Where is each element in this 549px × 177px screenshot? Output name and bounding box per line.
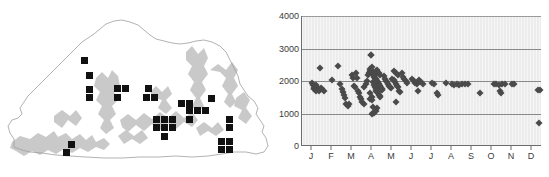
occurrence-marker [151, 94, 158, 101]
x-tick-label: F [328, 152, 334, 161]
y-tick-label: 2000 [279, 77, 299, 86]
occurrence-marker [202, 107, 209, 114]
occurrence-marker [68, 141, 75, 148]
scatter-point [360, 101, 367, 108]
occurrence-marker [86, 72, 93, 79]
x-tick-label: J [409, 152, 414, 161]
occurrence-marker [178, 100, 185, 107]
occurrence-marker [161, 133, 168, 140]
occurrence-marker [161, 116, 168, 123]
occurrence-marker [194, 107, 201, 114]
occurrence-marker [218, 146, 225, 153]
x-tick-mark [331, 146, 332, 150]
x-tick-label: J [429, 152, 434, 161]
x-tick-label: A [368, 152, 374, 161]
x-tick-mark [471, 146, 472, 150]
gridline [302, 49, 541, 50]
x-tick-mark [511, 146, 512, 150]
occurrence-marker [114, 85, 121, 92]
occurrence-marker [169, 124, 176, 131]
x-tick-label: M [347, 152, 355, 161]
y-tick-label: 1000 [279, 109, 299, 118]
x-tick-mark [351, 146, 352, 150]
y-axis-labels: 40003000200010000 [280, 16, 299, 146]
occurrence-marker [122, 85, 129, 92]
x-tick-mark [311, 146, 312, 150]
occurrence-marker [86, 86, 93, 93]
occurrence-marker [218, 138, 225, 145]
occurrence-marker [81, 57, 88, 64]
occurrence-marker [63, 149, 70, 156]
plot-area [301, 16, 541, 146]
scatter-point [334, 63, 341, 70]
scatter-point [497, 90, 504, 97]
x-tick-label: M [387, 152, 395, 161]
x-tick-mark [391, 146, 392, 150]
scatter-point [328, 77, 335, 84]
occurrence-marker [186, 116, 193, 123]
occurrence-marker [161, 124, 168, 131]
scatter-point [435, 91, 442, 98]
scatter-point [397, 89, 404, 96]
bhutan-map-svg [0, 0, 280, 177]
occurrence-marker [143, 94, 150, 101]
figure-container: 40003000200010000 JFMAMJJASOND [0, 0, 549, 177]
x-tick-mark [531, 146, 532, 150]
scatter-point [316, 64, 323, 71]
x-tick-label: S [468, 152, 474, 161]
occurrence-marker [226, 116, 233, 123]
x-tick-label: J [309, 152, 314, 161]
occurrence-marker [145, 85, 152, 92]
x-tick-mark [411, 146, 412, 150]
occurrence-marker [226, 138, 233, 145]
y-tick-label: 0 [294, 142, 299, 151]
x-tick-label: D [528, 152, 535, 161]
scatter-point [476, 90, 483, 97]
y-tick-label: 3000 [279, 44, 299, 53]
occurrence-marker [153, 116, 160, 123]
occurrence-marker [226, 146, 233, 153]
x-tick-mark [431, 146, 432, 150]
x-tick-mark [491, 146, 492, 150]
occurrence-marker [169, 116, 176, 123]
x-tick-label: O [487, 152, 494, 161]
occurrence-marker [114, 94, 121, 101]
x-axis-ticks [301, 146, 541, 150]
scatter-point [368, 51, 375, 58]
x-axis-labels: JFMAMJJASOND [301, 152, 541, 166]
x-tick-label: N [508, 152, 515, 161]
x-tick-label: A [448, 152, 454, 161]
occurrence-marker [86, 94, 93, 101]
scatter-point [414, 87, 421, 94]
distribution-map-panel [0, 0, 280, 177]
occurrence-marker [226, 124, 233, 131]
gridline [302, 114, 541, 115]
occurrence-marker [208, 95, 215, 102]
occurrence-marker [153, 124, 160, 131]
occurrence-marker [186, 100, 193, 107]
occurrence-marker [186, 107, 193, 114]
x-tick-mark [371, 146, 372, 150]
scatter-point [535, 120, 542, 127]
elevation-scatter-panel: 40003000200010000 JFMAMJJASOND [280, 0, 549, 177]
gridline [302, 16, 541, 17]
x-tick-mark [451, 146, 452, 150]
scatter-point [392, 99, 399, 106]
y-tick-label: 4000 [279, 12, 299, 21]
